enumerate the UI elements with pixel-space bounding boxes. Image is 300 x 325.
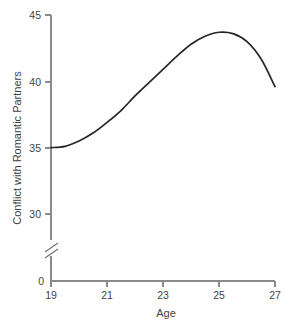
x-tick-label-19: 19 — [45, 289, 57, 301]
y-axis-title: Conflict with Romantic Partners — [11, 71, 23, 225]
y-tick-label-0: 0 — [38, 275, 44, 287]
y-tick-label-35: 35 — [29, 142, 41, 154]
x-tick-label-25: 25 — [213, 289, 225, 301]
y-tick-label-45: 45 — [29, 9, 41, 21]
x-tick-label-23: 23 — [157, 289, 169, 301]
x-axis-title: Age — [156, 307, 176, 319]
data-series-line — [51, 32, 275, 148]
y-tick-label-30: 30 — [29, 208, 41, 220]
x-tick-label-21: 21 — [101, 289, 113, 301]
line-chart: 45 40 35 30 0 19 21 23 25 27 Age Conflic… — [0, 0, 300, 325]
y-tick-label-40: 40 — [29, 76, 41, 88]
x-tick-label-27: 27 — [269, 289, 281, 301]
y-axis-break-icon — [45, 243, 58, 258]
chart-container: 45 40 35 30 0 19 21 23 25 27 Age Conflic… — [0, 0, 300, 325]
